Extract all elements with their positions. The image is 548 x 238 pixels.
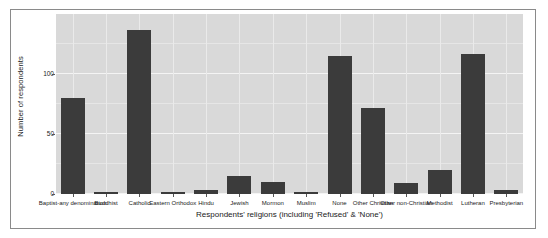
x-axis-tick-label: Muslim bbox=[297, 198, 316, 208]
gridline-horizontal-minor bbox=[56, 163, 523, 164]
x-axis-tick-labels: Baptist-any denominationBuddhistCatholic… bbox=[56, 198, 523, 210]
bar bbox=[227, 176, 251, 194]
x-axis-tick-label: Presbyterian bbox=[489, 198, 523, 208]
gridline-vertical bbox=[206, 14, 207, 194]
x-axis-tick-label: Other non-Christian bbox=[380, 198, 432, 208]
x-axis-tick-mark bbox=[239, 194, 240, 197]
gridline-horizontal-major bbox=[56, 133, 523, 134]
x-axis-tick-mark bbox=[506, 194, 507, 197]
y-axis-title: Number of respondents bbox=[16, 27, 25, 167]
gridline-horizontal-major bbox=[56, 73, 523, 74]
x-axis-tick-mark bbox=[206, 194, 207, 197]
chart-figure: Number of respondents 050100 Baptist-any… bbox=[0, 0, 548, 238]
bar bbox=[428, 170, 452, 194]
y-axis-tick-label: 50 bbox=[32, 131, 54, 138]
x-axis-tick-mark bbox=[273, 194, 274, 197]
bar bbox=[261, 182, 285, 194]
x-axis-tick-mark bbox=[306, 194, 307, 197]
x-axis-tick-label: Hindu bbox=[198, 198, 214, 208]
x-axis-tick-mark bbox=[106, 194, 107, 197]
gridline-vertical bbox=[440, 14, 441, 194]
plot-panel bbox=[56, 14, 523, 194]
x-axis-tick-mark bbox=[440, 194, 441, 197]
x-axis-tick-label: Mormon bbox=[262, 198, 284, 208]
x-axis-tick-mark bbox=[406, 194, 407, 197]
x-axis-tick-label: Lutheran bbox=[461, 198, 485, 208]
gridline-vertical bbox=[106, 14, 107, 194]
x-axis-tick-label: Catholic bbox=[129, 198, 151, 208]
y-axis-tick-label: 100 bbox=[32, 71, 54, 78]
gridline-vertical bbox=[173, 14, 174, 194]
x-axis-tick-mark bbox=[473, 194, 474, 197]
bar bbox=[461, 54, 485, 194]
gridline-horizontal-minor bbox=[56, 103, 523, 104]
x-axis-tick-label: Methodist bbox=[427, 198, 453, 208]
y-axis-tick-label: 0 bbox=[32, 191, 54, 198]
bar bbox=[127, 30, 151, 194]
gridline-vertical bbox=[406, 14, 407, 194]
gridline-vertical bbox=[506, 14, 507, 194]
y-axis-tick-mark bbox=[52, 134, 55, 135]
x-axis-tick-mark bbox=[139, 194, 140, 197]
bar bbox=[61, 98, 85, 194]
y-axis-tick-mark bbox=[52, 74, 55, 75]
x-axis-tick-mark bbox=[373, 194, 374, 197]
x-axis-tick-mark bbox=[73, 194, 74, 197]
bar bbox=[394, 183, 418, 194]
gridline-vertical bbox=[273, 14, 274, 194]
x-axis-tick-label: None bbox=[332, 198, 346, 208]
x-axis-title: Respondents' religions (including 'Refus… bbox=[56, 210, 523, 219]
x-axis-tick-label: Buddhist bbox=[94, 198, 117, 208]
x-axis-tick-label: Eastern Orthodox bbox=[149, 198, 196, 208]
bar bbox=[361, 108, 385, 194]
x-axis-tick-label: Jewish bbox=[230, 198, 248, 208]
x-axis-tick-mark bbox=[340, 194, 341, 197]
gridline-horizontal-minor bbox=[56, 43, 523, 44]
y-axis-tick-mark bbox=[52, 194, 55, 195]
bar bbox=[328, 56, 352, 194]
x-axis-tick-mark bbox=[173, 194, 174, 197]
gridline-vertical bbox=[306, 14, 307, 194]
gridline-vertical bbox=[239, 14, 240, 194]
